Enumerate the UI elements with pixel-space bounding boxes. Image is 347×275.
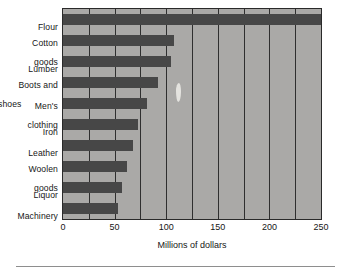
bar-woolen-goods [63,161,127,172]
x-tick-label-0: 0 [60,222,65,233]
bar-boots-and-shoes [63,77,158,88]
bar-liquor [63,182,122,193]
x-axis-label: Millions of dollars [62,240,322,250]
bar-leather [63,140,133,151]
bar-machinery [63,203,118,214]
x-tick-label-150: 150 [210,222,225,233]
x-tick-label-100: 100 [159,222,174,233]
bar-iron [63,119,138,130]
bar-chart-figure: Flour Cotton goods Lumber Boots and shoe… [0,0,347,275]
x-tick-label-250: 250 [313,222,328,233]
bar-cotton-goods [63,35,174,46]
x-tick-label-200: 200 [262,222,277,233]
category-axis: Flour Cotton goods Lumber Boots and shoe… [0,8,62,220]
x-tick-label-50: 50 [110,222,120,233]
x-axis-ticks: 050100150200250 [62,222,322,236]
bar-series [63,9,321,219]
category-label-machinery: Machinery [0,202,58,231]
bar-men-s-clothing [63,98,147,109]
bottom-rule [16,266,335,267]
bar-flour [63,14,321,25]
bar-lumber [63,56,171,67]
plot-area [62,8,322,220]
